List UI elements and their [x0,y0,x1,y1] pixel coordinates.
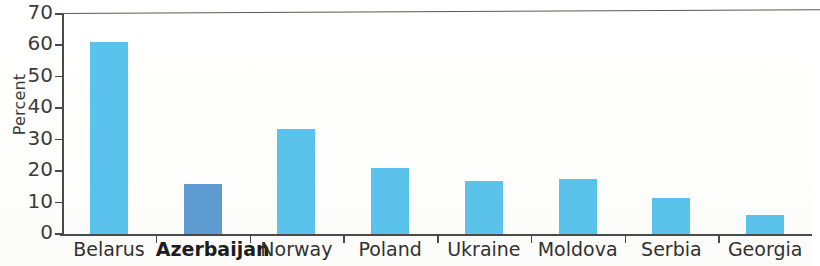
bar-belarus [90,42,128,234]
y-axis-title: Percent [10,60,29,150]
x-axis-label-georgia: Georgia [718,236,812,262]
x-axis-category-labels: BelarusAzerbaijanNorwayPolandUkraineMold… [62,236,812,266]
bar-poland [371,168,409,234]
x-axis-label-moldova: Moldova [531,236,625,262]
x-axis-label-belarus: Belarus [62,236,156,262]
bars-container [62,14,812,234]
y-tick-label: 60 [28,32,53,54]
y-tick-label: 0 [40,221,53,243]
y-tick-label: 50 [28,64,53,86]
x-axis-label-ukraine: Ukraine [437,236,531,262]
x-axis-label-serbia: Serbia [625,236,719,262]
bar-azerbaijan [184,184,222,234]
y-tick-label: 70 [28,1,53,23]
bar-norway [277,129,315,234]
y-tick-label: 30 [28,127,53,149]
bar-moldova [559,179,597,234]
bar-serbia [652,198,690,234]
plot-area: 706050403020100 [62,14,812,234]
y-tick-label: 20 [28,158,53,180]
x-axis-label-norway: Norway [250,236,344,262]
x-axis-label-azerbaijan: Azerbaijan [156,236,250,262]
y-tick-label: 40 [28,95,53,117]
bar-ukraine [465,181,503,234]
bar-georgia [746,215,784,234]
y-tick-label: 10 [28,190,53,212]
x-axis-label-poland: Poland [343,236,437,262]
